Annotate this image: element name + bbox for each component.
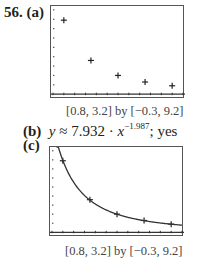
regression-plot-c [49, 146, 183, 236]
plot-canvas-a [51, 6, 185, 99]
plot-canvas-c [50, 147, 184, 237]
window-caption-c: [0.8, 3.2] by [−0.3, 9.2] [65, 244, 182, 259]
power-regression-equation: (b) y ≈ 7.932 · x−1.987; yes [23, 121, 177, 140]
window-caption-a: [0.8, 3.2] by [−0.3, 9.2] [66, 104, 183, 119]
part-c-label: (c) [23, 138, 40, 153]
scatter-plot-a [50, 5, 184, 98]
problem-number: 56. (a) [4, 4, 44, 21]
